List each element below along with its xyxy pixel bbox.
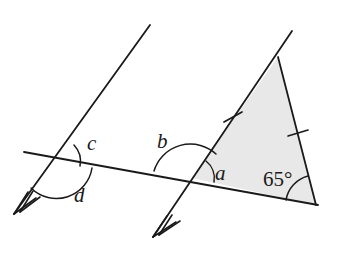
label-angle-b: b [157, 129, 168, 153]
arrowhead-left-parallel [14, 191, 40, 214]
geometry-diagram-canvas: a b c d 65° [0, 0, 341, 258]
label-angle-d: d [74, 183, 85, 207]
geometry-figure: a b c d 65° [0, 0, 341, 258]
label-angle-a: a [215, 161, 226, 185]
label-angle-65-degrees: 65° [263, 167, 292, 191]
label-angle-c: c [87, 131, 97, 155]
